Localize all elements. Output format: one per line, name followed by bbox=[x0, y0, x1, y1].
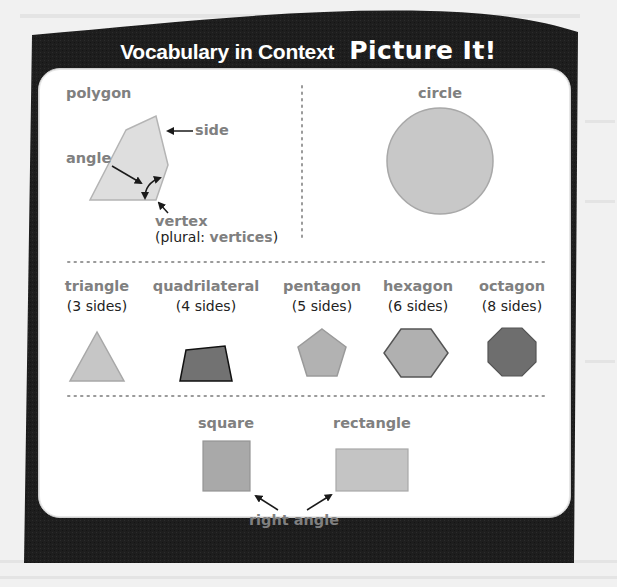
vertex-arrow bbox=[159, 203, 168, 213]
right-angle-arrow-right bbox=[307, 495, 331, 510]
rectangle-shape bbox=[336, 449, 408, 491]
vertex-plural-note: (plural: vertices) bbox=[155, 229, 278, 245]
right-angle-arrow-left bbox=[256, 496, 278, 510]
hexagon-shape bbox=[384, 329, 448, 377]
hexagon-sides: (6 sides) bbox=[388, 298, 448, 314]
triangle-label: triangle bbox=[65, 278, 129, 294]
triangle-shape bbox=[70, 332, 124, 381]
octagon-label: octagon bbox=[479, 278, 545, 294]
triangle-sides: (3 sides) bbox=[67, 298, 127, 314]
pentagon-shape bbox=[298, 329, 346, 376]
hexagon-label: hexagon bbox=[383, 278, 453, 294]
vertex-label: vertex bbox=[155, 213, 208, 229]
circle-shape bbox=[387, 108, 493, 214]
side-label: side bbox=[195, 122, 229, 138]
plural-prefix: (plural: bbox=[155, 229, 210, 245]
rectangle-label: rectangle bbox=[333, 415, 411, 431]
quadrilateral-shape bbox=[180, 346, 232, 381]
circle-heading: circle bbox=[418, 85, 462, 101]
square-label: square bbox=[198, 415, 254, 431]
pentagon-label: pentagon bbox=[283, 278, 361, 294]
octagon-sides: (8 sides) bbox=[482, 298, 542, 314]
quadrilateral-label: quadrilateral bbox=[153, 278, 259, 294]
square-shape bbox=[203, 441, 250, 491]
plural-suffix: ) bbox=[273, 229, 278, 245]
quadrilateral-sides: (4 sides) bbox=[176, 298, 236, 314]
angle-label: angle bbox=[66, 150, 111, 166]
octagon-shape bbox=[488, 328, 536, 376]
plural-word: vertices bbox=[210, 229, 273, 245]
right-angle-caption: right angle bbox=[249, 512, 339, 528]
pentagon-sides: (5 sides) bbox=[292, 298, 352, 314]
polygon-heading: polygon bbox=[66, 85, 131, 101]
